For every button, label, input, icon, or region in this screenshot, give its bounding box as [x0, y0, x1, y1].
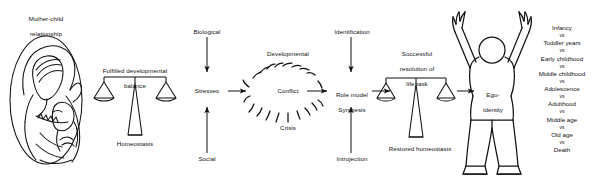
developmental-label: Developmental [250, 50, 326, 58]
life-stage-separator: vs [524, 93, 600, 100]
life-stage-list: InfancyvsToddler yearsvsEarly childhoodv… [524, 24, 600, 154]
life-stage: Middle age [524, 116, 600, 124]
identification-label: Identification [323, 28, 381, 36]
restored-homeostasis-label: Restored homeostasis [375, 145, 465, 153]
diagram-canvas: Mother-child relationship Fulfilled deve… [0, 0, 600, 185]
social-label: Social [185, 155, 229, 163]
life-stage: Middle childhood [524, 70, 600, 78]
stresses-label: Stresses [184, 87, 230, 95]
biological-label: Biological [182, 28, 232, 36]
life-stage-separator: vs [524, 47, 600, 54]
life-stage: Infancy [524, 24, 600, 32]
successful-resolution-label: Successful resolution of life task [388, 42, 446, 88]
life-stage-separator: vs [524, 124, 600, 131]
mother-child-title: Mother-child relationship [6, 7, 86, 37]
fulfilled-developmental-balance-label: Fulfilled developmental balance [95, 59, 175, 89]
crisis-label: Crisis [265, 124, 311, 132]
life-stage: Death [524, 146, 600, 154]
life-stage-separator: vs [524, 108, 600, 115]
life-stage-separator: vs [524, 139, 600, 146]
ego-identity-label: Ego- identity [478, 83, 508, 113]
life-stage-separator: vs [524, 63, 600, 70]
role-model-synthesis-label: Role model Synthesis [325, 83, 379, 113]
life-stage: Old age [524, 131, 600, 139]
life-stage: Toddler years [524, 39, 600, 47]
life-stage: Early childhood [524, 55, 600, 63]
homeostasis-label: Homeostasis [105, 140, 165, 148]
introjection-label: Introjection [325, 155, 379, 163]
mother-child-illustration [10, 36, 82, 164]
conflict-label: Conflict [261, 87, 315, 95]
life-stage-separator: vs [524, 32, 600, 39]
life-stage: Adulthood [524, 100, 600, 108]
life-stage: Adolescence [524, 85, 600, 93]
life-stage-separator: vs [524, 78, 600, 85]
